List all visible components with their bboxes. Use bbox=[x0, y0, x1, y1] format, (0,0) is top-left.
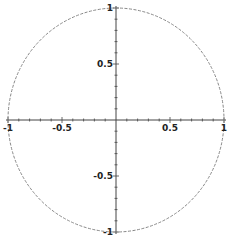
x-tick-label: -0.5 bbox=[52, 123, 72, 133]
axes bbox=[6, 6, 226, 234]
unit-circle-chart: -1-0.50.51 10.5-0.5-1 bbox=[0, 0, 228, 240]
y-tick-label: 0.5 bbox=[97, 59, 113, 69]
y-tick-label: 1 bbox=[107, 3, 113, 13]
x-tick-label: 1 bbox=[221, 123, 227, 133]
x-tick-label: -1 bbox=[3, 123, 13, 133]
x-tick-label: 0.5 bbox=[162, 123, 178, 133]
y-tick-label: -0.5 bbox=[93, 171, 113, 181]
y-tick-label: -1 bbox=[103, 227, 113, 237]
